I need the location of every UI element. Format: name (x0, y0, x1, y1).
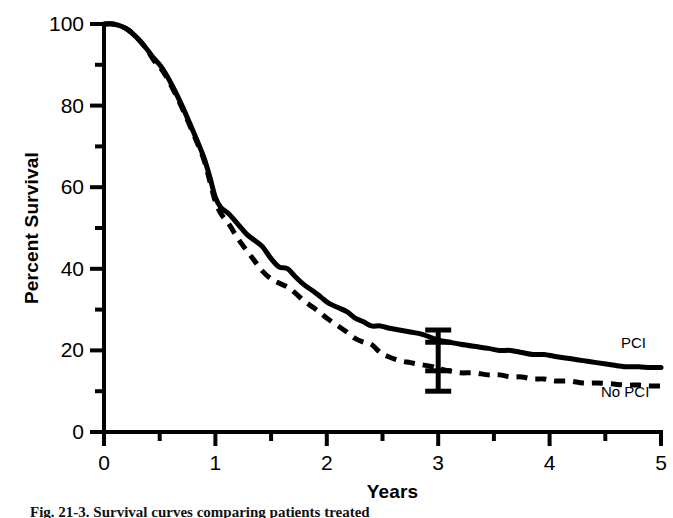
y-tick-label: 100 (49, 12, 84, 35)
y-tick-label: 80 (61, 94, 84, 117)
x-tick-label: 3 (432, 451, 444, 474)
series-label-pci: PCI (621, 334, 646, 351)
x-tick-label: 5 (655, 451, 667, 474)
y-axis-ticks (90, 24, 104, 432)
x-tick-label: 0 (98, 451, 110, 474)
series-line-pci (104, 24, 661, 368)
series-line-no-pci (104, 24, 661, 386)
x-tick-label: 1 (210, 451, 222, 474)
y-axis-tick-labels: 020406080100 (49, 12, 84, 443)
plot-area: 020406080100 012345 Years Percent Surviv… (21, 12, 667, 502)
figure-caption: Fig. 21-3. Survival curves comparing pat… (30, 504, 650, 518)
y-axis-title: Percent Survival (21, 152, 42, 304)
y-tick-label: 60 (61, 175, 84, 198)
y-tick-label: 20 (61, 338, 84, 361)
y-tick-label: 40 (61, 257, 84, 280)
y-tick-label: 0 (72, 420, 84, 443)
series-label-no-pci: No PCI (601, 383, 649, 400)
x-tick-label: 4 (544, 451, 556, 474)
x-axis-tick-labels: 012345 (98, 451, 667, 474)
x-axis-title: Years (367, 481, 419, 502)
x-tick-label: 2 (321, 451, 333, 474)
x-axis-ticks (104, 423, 661, 446)
